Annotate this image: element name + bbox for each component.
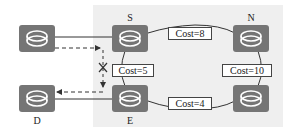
label-d: D <box>27 115 47 126</box>
router-d <box>19 85 55 112</box>
router-icon <box>112 25 148 52</box>
router-icon <box>112 85 148 112</box>
cost-s-n: Cost=8 <box>168 27 212 40</box>
router-r <box>233 85 269 112</box>
router-source <box>19 25 55 52</box>
cost-s-e: Cost=5 <box>112 64 154 77</box>
label-e: E <box>120 115 140 126</box>
label-n: N <box>241 12 261 23</box>
router-icon <box>19 85 55 112</box>
router-e <box>112 85 148 112</box>
router-icon <box>233 85 269 112</box>
cost-n-r: Cost=10 <box>222 64 272 77</box>
cost-e-r: Cost=4 <box>168 97 212 110</box>
router-icon <box>233 25 269 52</box>
label-s: S <box>120 12 140 23</box>
router-s <box>112 25 148 52</box>
router-icon <box>19 25 55 52</box>
router-n <box>233 25 269 52</box>
